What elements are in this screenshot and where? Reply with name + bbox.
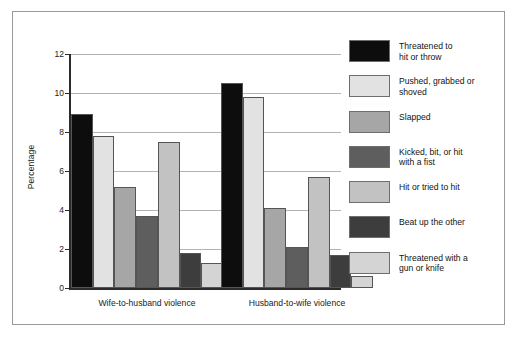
legend-swatch — [349, 75, 390, 97]
bar — [201, 263, 223, 288]
bar — [158, 142, 180, 288]
legend-item[interactable]: Threatened with a gun or knife — [349, 252, 505, 275]
bar — [136, 216, 158, 288]
legend-swatch — [349, 252, 390, 274]
bar — [71, 114, 93, 288]
legend-label: Beat up the other — [399, 216, 465, 228]
bar — [93, 136, 115, 288]
plot-area: 024681012 Wife-to-husband violenceHusban… — [69, 54, 341, 288]
legend-item[interactable]: Beat up the other — [349, 216, 505, 239]
y-axis-tick-label: 12 — [55, 49, 64, 59]
legend-label: Pushed, grabbed or shoved — [399, 75, 475, 97]
legend-item[interactable]: Hit or tried to hit — [349, 181, 505, 204]
legend-label: Threatened with a gun or knife — [399, 252, 468, 274]
legend-label: Hit or tried to hit — [399, 181, 460, 193]
legend-swatch — [349, 111, 390, 133]
legend-swatch — [349, 181, 390, 203]
legend-item[interactable]: Slapped — [349, 111, 505, 134]
bar — [286, 247, 308, 288]
legend-item[interactable]: Pushed, grabbed or shoved — [349, 75, 505, 98]
legend-label: Slapped — [399, 111, 431, 123]
gridline — [69, 132, 341, 133]
legend-swatch — [349, 216, 390, 238]
bar — [330, 255, 352, 288]
bar — [264, 208, 286, 288]
x-axis-line — [69, 288, 341, 290]
gridline — [69, 54, 341, 55]
x-axis-group-label: Husband-to-wife violence — [201, 298, 393, 308]
y-axis-tick-label: 0 — [59, 283, 64, 293]
legend-item[interactable]: Kicked, bit, or hit with a fist — [349, 146, 505, 169]
bar — [221, 83, 243, 288]
legend-swatch — [349, 146, 390, 168]
chart-legend: Threatened to hit or throwPushed, grabbe… — [349, 40, 505, 287]
bar — [180, 253, 202, 288]
plot-wrapper: Percentage 024681012 Wife-to-husband vio… — [13, 12, 353, 326]
y-axis-tick-label: 6 — [59, 166, 64, 176]
legend-label: Threatened to hit or throw — [399, 40, 453, 62]
y-axis-tick-label: 8 — [59, 127, 64, 137]
y-axis-tick-label: 2 — [59, 244, 64, 254]
bar — [114, 187, 136, 288]
y-axis-tick-label: 10 — [55, 88, 64, 98]
legend-swatch — [349, 40, 390, 62]
y-axis-tick-label: 4 — [59, 205, 64, 215]
legend-item[interactable]: Threatened to hit or throw — [349, 40, 505, 63]
y-axis-title: Percentage — [26, 112, 36, 222]
bar — [243, 97, 265, 288]
legend-label: Kicked, bit, or hit with a fist — [399, 146, 463, 168]
gridline — [69, 93, 341, 94]
chart-figure-frame: Percentage 024681012 Wife-to-husband vio… — [12, 11, 505, 325]
bar — [308, 177, 330, 288]
